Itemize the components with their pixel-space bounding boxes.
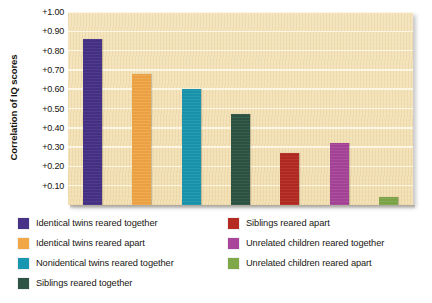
bar — [280, 153, 299, 205]
legend-item[interactable]: Identical twins reared together — [18, 214, 228, 232]
iq-correlation-bar-chart: Correlation of IQ scores +1.00+0.90+0.80… — [0, 0, 432, 303]
legend-item[interactable]: Siblings reared apart — [228, 214, 428, 232]
legend-item-label: Unrelated children reared together — [246, 238, 384, 248]
y-axis-tick-label: +0.90 — [42, 27, 64, 36]
y-axis-tick-label: +0.70 — [42, 65, 64, 74]
legend-swatch-icon — [228, 238, 239, 249]
legend-swatch-icon — [228, 258, 239, 269]
legend-item[interactable]: Siblings reared together — [18, 274, 228, 292]
y-axis-tick-label: +0.30 — [42, 143, 64, 152]
plot-area — [68, 12, 413, 205]
legend-item[interactable]: Nonidentical twins reared together — [18, 254, 228, 272]
legend-swatch-icon — [228, 218, 239, 229]
legend-swatch-icon — [18, 278, 29, 289]
bar — [83, 39, 102, 205]
bar — [182, 89, 201, 205]
legend-item-label: Siblings reared apart — [246, 218, 330, 228]
legend-item-label: Nonidentical twins reared together — [36, 258, 174, 268]
y-axis-title-label: Correlation of IQ scores — [9, 54, 20, 160]
bar — [330, 143, 349, 205]
y-axis-tick-label: +0.60 — [42, 85, 64, 94]
y-axis-tick-label: +1.00 — [42, 8, 64, 17]
legend-item-label: Identical twins reared apart — [36, 238, 145, 248]
y-axis-tick-label: +0.10 — [42, 181, 64, 190]
legend-column-left: Identical twins reared togetherIdentical… — [18, 214, 228, 294]
y-axis-title: Correlation of IQ scores — [6, 12, 22, 202]
baseline-shadow — [70, 205, 415, 209]
legend: Identical twins reared togetherIdentical… — [18, 214, 424, 298]
legend-item[interactable]: Unrelated children reared together — [228, 234, 428, 252]
legend-swatch-icon — [18, 238, 29, 249]
bar — [132, 74, 151, 205]
y-axis-tick-labels: +1.00+0.90+0.80+0.70+0.60+0.50+0.40+0.30… — [22, 12, 66, 205]
legend-item[interactable]: Unrelated children reared apart — [228, 254, 428, 272]
legend-item[interactable]: Identical twins reared apart — [18, 234, 228, 252]
y-axis-tick-label: +0.40 — [42, 123, 64, 132]
legend-item-label: Siblings reared together — [36, 278, 132, 288]
legend-swatch-icon — [18, 258, 29, 269]
bar — [231, 114, 250, 205]
bar — [379, 197, 398, 205]
legend-item-label: Identical twins reared together — [36, 218, 157, 228]
legend-column-right: Siblings reared apartUnrelated children … — [228, 214, 428, 274]
legend-item-label: Unrelated children reared apart — [246, 258, 372, 268]
y-axis-tick-label: +0.50 — [42, 104, 64, 113]
y-axis-tick-label: +0.80 — [42, 46, 64, 55]
bar-series — [68, 12, 413, 205]
y-axis-tick-label: +0.20 — [42, 162, 64, 171]
legend-swatch-icon — [18, 218, 29, 229]
